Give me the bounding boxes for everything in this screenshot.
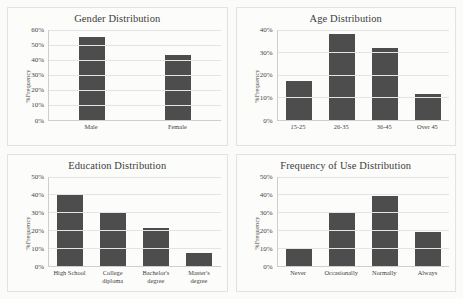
gridline [278, 97, 450, 98]
x-tick-label: Never [277, 269, 320, 277]
y-tick-education: 10% [31, 245, 44, 253]
gridline [49, 177, 221, 178]
plot-area-frequency: %Frequency 0%10%20%30%40%50% NeverOccasi… [237, 177, 454, 290]
x-axis-labels-gender: MaleFemale [48, 121, 221, 143]
chart-panel-gender: Gender Distribution %Frequency 0%10%20%3… [7, 7, 228, 146]
y-tick-frequency: 40% [260, 191, 273, 199]
x-tick-label: 26-35 [320, 123, 363, 131]
plot-canvas-frequency [277, 177, 450, 268]
y-tick-education: 40% [31, 191, 44, 199]
y-tick-frequency: 30% [260, 209, 273, 217]
bar-slot [320, 177, 363, 267]
y-axis-ticks-frequency: 0%10%20%30%40%50% [249, 177, 275, 268]
chart-title-age: Age Distribution [237, 13, 456, 24]
x-tick-label: Male [48, 123, 134, 131]
y-tick-education: 20% [31, 227, 44, 235]
y-tick-age: 20% [260, 71, 273, 79]
gridline [49, 60, 221, 61]
x-axis-labels-age: 15-2526-3536-45Over 45 [277, 121, 450, 143]
plot-area-education: %Frequency 0%10%20%30%40%50% High School… [8, 177, 225, 290]
bar-slot [278, 177, 321, 267]
x-tick-label: Female [134, 123, 220, 131]
y-tick-gender: 30% [31, 71, 44, 79]
y-tick-education: 30% [31, 209, 44, 217]
y-axis-ticks-gender: 0%10%20%30%40%50%60% [20, 30, 46, 121]
x-tick-label: Occasionally [320, 269, 363, 277]
x-tick-label: 15-25 [277, 123, 320, 131]
gridline [278, 248, 450, 249]
gridline [49, 194, 221, 195]
bar-slot [178, 177, 221, 267]
chart-panel-education: Education Distribution %Frequency 0%10%2… [7, 154, 228, 293]
y-tick-age: 40% [260, 26, 273, 34]
gridline [49, 105, 221, 106]
chart-title-frequency: Frequency of Use Distribution [237, 160, 456, 171]
y-tick-frequency: 10% [260, 245, 273, 253]
y-tick-frequency: 50% [260, 173, 273, 181]
bar-group-frequency [278, 177, 450, 267]
bar-slot [406, 177, 449, 267]
y-axis-ticks-age: 0%10%20%30%40% [249, 30, 275, 121]
y-tick-gender: 20% [31, 86, 44, 94]
x-tick-label: Master's degree [177, 269, 220, 284]
x-tick-label: Bachelor's degree [134, 269, 177, 284]
bar-age-1 [329, 34, 355, 119]
gridline [278, 194, 450, 195]
y-tick-age: 0% [263, 117, 272, 125]
bar-education-1 [100, 212, 126, 266]
bar-slot [135, 177, 178, 267]
bar-frequency-0 [286, 248, 312, 266]
plot-canvas-education [48, 177, 221, 268]
gridline [49, 90, 221, 91]
x-tick-label: Normally [363, 269, 406, 277]
gridline [49, 45, 221, 46]
plot-canvas-age [277, 30, 450, 121]
y-tick-education: 0% [35, 263, 44, 271]
gridline [49, 230, 221, 231]
gridline [278, 230, 450, 231]
y-tick-education: 50% [31, 173, 44, 181]
x-tick-label: Always [406, 269, 449, 277]
chart-title-gender: Gender Distribution [8, 13, 227, 24]
gridline [278, 30, 450, 31]
y-tick-gender: 0% [35, 117, 44, 125]
y-tick-frequency: 20% [260, 227, 273, 235]
bar-group-education [49, 177, 221, 267]
y-tick-age: 10% [260, 94, 273, 102]
y-tick-gender: 50% [31, 41, 44, 49]
plot-canvas-gender [48, 30, 221, 121]
x-axis-labels-education: High SchoolCollege diplomaBachelor's deg… [48, 267, 221, 289]
bar-slot [49, 177, 92, 267]
x-tick-label: College diploma [91, 269, 134, 284]
y-tick-age: 30% [260, 49, 273, 57]
x-tick-label: 36-45 [363, 123, 406, 131]
gridline [278, 177, 450, 178]
chart-panel-age: Age Distribution %Frequency 0%10%20%30%4… [236, 7, 457, 146]
plot-area-age: %Frequency 0%10%20%30%40% 15-2526-3536-4… [237, 30, 454, 143]
bar-frequency-1 [329, 212, 355, 266]
x-tick-label: High School [48, 269, 91, 277]
gridline [49, 248, 221, 249]
chart-title-education: Education Distribution [8, 160, 227, 171]
bar-slot [363, 177, 406, 267]
bar-education-3 [186, 253, 212, 266]
bar-gender-1 [165, 55, 191, 119]
y-tick-gender: 40% [31, 56, 44, 64]
bar-age-2 [372, 48, 398, 120]
gridline [278, 75, 450, 76]
y-tick-gender: 10% [31, 101, 44, 109]
plot-area-gender: %Frequency 0%10%20%30%40%50%60% MaleFema… [8, 30, 225, 143]
bar-slot [92, 177, 135, 267]
bar-age-0 [286, 81, 312, 119]
charts-sheet: Gender Distribution %Frequency 0%10%20%3… [0, 0, 463, 299]
y-tick-gender: 60% [31, 26, 44, 34]
bar-gender-0 [79, 37, 105, 119]
gridline [49, 30, 221, 31]
chart-panel-frequency: Frequency of Use Distribution %Frequency… [236, 154, 457, 293]
y-axis-ticks-education: 0%10%20%30%40%50% [20, 177, 46, 268]
x-tick-label: Over 45 [406, 123, 449, 131]
gridline [49, 75, 221, 76]
gridline [278, 212, 450, 213]
gridline [49, 212, 221, 213]
y-tick-frequency: 0% [263, 263, 272, 271]
